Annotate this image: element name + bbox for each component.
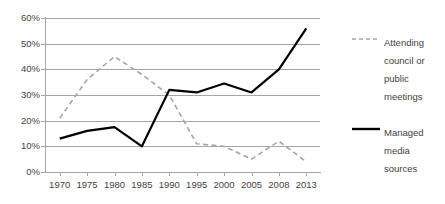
x-tick-mark (306, 172, 307, 176)
chart-legend: Attending council or public meetings Man… (352, 32, 445, 194)
y-tick-mark (41, 146, 46, 147)
y-tick-mark (41, 44, 46, 45)
x-tick-mark (279, 172, 280, 176)
y-tick-label: 50% (4, 39, 40, 49)
x-tick-label: 2013 (286, 180, 326, 190)
y-tick-label: 60% (4, 13, 40, 23)
gridline (46, 69, 320, 70)
gridline (46, 121, 320, 122)
y-tick-label: 40% (4, 64, 40, 74)
series-line-managed-media-sources (60, 28, 307, 146)
y-tick-mark (41, 69, 46, 70)
legend-label-attending-council: Attending council or public meetings (384, 37, 425, 102)
x-tick-mark (224, 172, 225, 176)
legend-entry-managed-media: Managed media sources (352, 122, 445, 176)
y-tick-label: 0% (4, 167, 40, 177)
x-tick-mark (87, 172, 88, 176)
y-tick-mark (41, 95, 46, 96)
gridline (46, 146, 320, 147)
gridline (46, 44, 320, 45)
y-tick-mark (41, 172, 46, 173)
y-tick-label: 20% (4, 116, 40, 126)
legend-entry-attending-council: Attending council or public meetings (352, 32, 445, 104)
gridline (46, 18, 320, 19)
dashed-line-swatch (352, 37, 380, 40)
x-tick-mark (60, 172, 61, 176)
x-tick-mark (115, 172, 116, 176)
legend-label-managed-media: Managed media sources (384, 127, 424, 174)
y-tick-mark (41, 18, 46, 19)
x-tick-mark (169, 172, 170, 176)
y-tick-label: 30% (4, 90, 40, 100)
x-tick-mark (197, 172, 198, 176)
x-tick-mark (252, 172, 253, 176)
chart-container: 0%10%20%30%40%50%60% 1970197519801985199… (0, 0, 445, 204)
x-tick-mark (142, 172, 143, 176)
y-tick-mark (41, 121, 46, 122)
y-tick-label: 10% (4, 141, 40, 151)
gridline (46, 95, 320, 96)
solid-line-swatch (352, 127, 380, 130)
